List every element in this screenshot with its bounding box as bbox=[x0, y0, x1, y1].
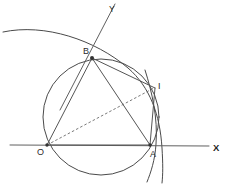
point-label-O: O bbox=[37, 147, 44, 157]
vertex-dot-O bbox=[45, 143, 48, 146]
dashed-segment-O-I bbox=[47, 88, 154, 145]
geometry-canvas: O A B I X Y bbox=[0, 0, 226, 184]
point-label-I: I bbox=[158, 81, 161, 91]
segment-O-B bbox=[47, 58, 92, 145]
y-axis-label: Y bbox=[109, 4, 115, 14]
figure-root: O A B I X Y bbox=[0, 0, 226, 184]
circumscribed-circle bbox=[43, 59, 159, 175]
vertex-dot-A bbox=[148, 143, 151, 146]
point-label-A: A bbox=[150, 149, 156, 159]
point-label-B: B bbox=[83, 46, 89, 56]
segment-B-A bbox=[92, 58, 150, 145]
y-axis-line bbox=[60, 4, 115, 110]
x-axis-label: X bbox=[213, 142, 220, 153]
vertex-dot-B bbox=[90, 56, 94, 60]
